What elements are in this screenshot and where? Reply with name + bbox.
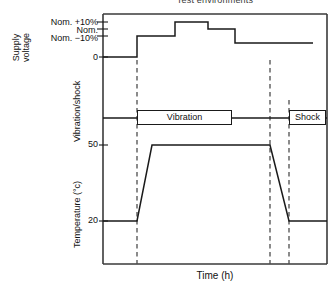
tick-label-zero: 0 <box>26 52 98 62</box>
chart-title: Test environments <box>103 0 327 5</box>
axis-label-time: Time (h) <box>103 270 327 281</box>
annotation-shock: Shock <box>289 110 326 125</box>
tick-label-temp-50: 50 <box>46 139 98 149</box>
annotation-vibration: Vibration <box>137 110 232 125</box>
supply-voltage-trace <box>103 22 313 57</box>
test-environments-figure: Test environments Supply voltage Vibrati… <box>0 0 335 292</box>
phase-marker-lines <box>137 60 289 264</box>
axis-label-vibration-shock: Vibration/shock <box>72 81 82 142</box>
tick-label-temp-20: 20 <box>46 215 98 225</box>
tick-label-nom-minus-10: Nom. −10% <box>26 33 98 43</box>
